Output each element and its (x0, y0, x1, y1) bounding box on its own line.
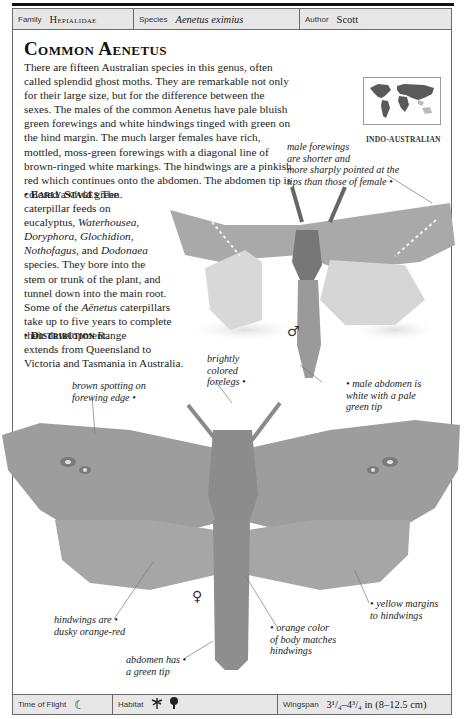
text: tips than those of female (287, 176, 387, 187)
text: green tip (346, 401, 382, 412)
text: brown spotting on (72, 380, 146, 391)
text: dusky orange-red (54, 626, 125, 637)
wingspan-value: 3¹/₄–4³/₄ in (8–12.5 cm) (327, 699, 427, 710)
text: hindwings are (54, 614, 112, 625)
annotation-yellow-margins: • yellow margins to hindwings (370, 598, 438, 621)
text: yellow margins (376, 598, 438, 609)
annotation-male-forewings: male forewings are shorter and more shar… (287, 141, 399, 187)
text: more sharply pointed at the (287, 164, 399, 175)
annotation-hindwings: hindwings are • dusky orange-red (54, 614, 125, 637)
text: white with a pale (346, 390, 416, 401)
text: male forewings (287, 141, 349, 152)
text: are shorter and (287, 153, 350, 164)
female-symbol-icon: ♀ (192, 588, 202, 604)
habitat-cell: Habitat (113, 695, 278, 714)
deciduous-tree-icon (169, 697, 179, 712)
annotation-brown-spotting: brown spotting on forewing edge • (72, 380, 146, 403)
text: of body matches (270, 634, 336, 645)
text: to hindwings (370, 610, 422, 621)
text: forewing edge (72, 392, 130, 403)
text: brightly (207, 353, 239, 364)
palm-tree-icon (151, 697, 163, 712)
male-symbol-icon: ♂ (287, 323, 300, 339)
time-of-flight-label: Time of Flight (18, 700, 66, 709)
male-moth-image (170, 187, 455, 378)
annotation-brightly-colored: brightly colored forelegs • (207, 353, 246, 388)
text: hindwings (270, 645, 312, 656)
text: male abdomen is (352, 378, 421, 389)
text: abdomen has (126, 654, 180, 665)
text: forelegs (207, 376, 239, 387)
text: a green tip (126, 666, 170, 677)
wingspan-cell: Wingspan 3¹/₄–4³/₄ in (8–12.5 cm) (278, 695, 451, 714)
habitat-label: Habitat (118, 700, 143, 709)
moon-icon: ☾ (74, 698, 85, 712)
annotation-abdomen-tip: abdomen has • a green tip (126, 654, 186, 677)
footer-bar: Time of Flight ☾ Habitat Wingspan 3¹/₄–4… (12, 694, 452, 715)
annotation-orange-color: • orange color of body matches hindwings (270, 622, 336, 657)
text: colored (207, 365, 238, 376)
time-of-flight-cell: Time of Flight ☾ (13, 695, 113, 714)
wingspan-label: Wingspan (283, 700, 319, 709)
text: orange color (276, 622, 329, 633)
annotation-male-abdomen: • male abdomen is white with a pale gree… (346, 378, 421, 413)
